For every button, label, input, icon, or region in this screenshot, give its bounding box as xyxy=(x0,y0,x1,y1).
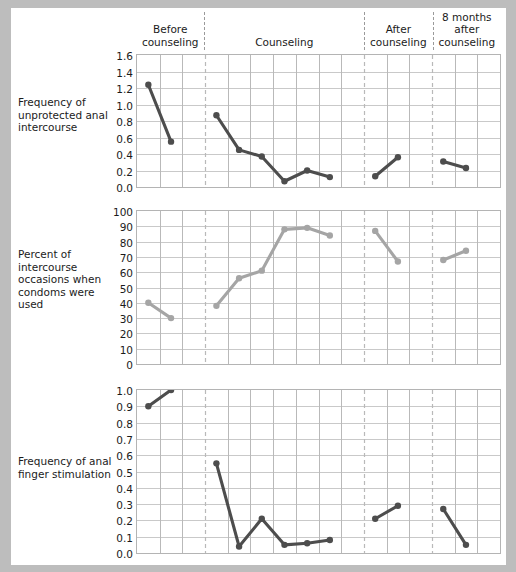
data-point xyxy=(145,403,151,409)
data-point xyxy=(236,543,242,549)
y-tick-label: 0.4 xyxy=(116,484,133,495)
y-tick-label: 0.7 xyxy=(116,435,133,446)
series-line-before xyxy=(148,390,171,406)
data-point xyxy=(327,537,333,543)
data-point xyxy=(372,516,378,522)
data-point xyxy=(440,506,446,512)
data-point xyxy=(213,460,219,466)
chart-block-frequency-finger-stimulation: Frequency of anal finger stimulation 0.0… xyxy=(11,8,506,565)
chart-svg-3 xyxy=(137,390,500,553)
y-tick-label: 1.0 xyxy=(116,386,133,397)
chart-row-label: Frequency of anal finger stimulation xyxy=(18,455,121,480)
series-line-after xyxy=(375,506,398,519)
figure-page: BeforecounselingCounselingAftercounselin… xyxy=(11,8,506,565)
y-tick-label: 0.6 xyxy=(116,451,133,462)
x-axis-title: Bi-weekly periods xyxy=(11,564,506,565)
data-point xyxy=(463,542,469,548)
data-point xyxy=(281,542,287,548)
data-point xyxy=(395,503,401,509)
y-tick-label: 0.3 xyxy=(116,500,133,511)
data-point xyxy=(304,540,310,546)
plot-area-chart-3: 0.00.10.20.30.40.50.60.70.80.91.0 xyxy=(136,389,501,554)
y-tick-label: 0.9 xyxy=(116,402,133,413)
y-tick-label: 0.2 xyxy=(116,516,133,527)
y-tick-label: 0.8 xyxy=(116,418,133,429)
y-tick-label: 0.1 xyxy=(116,532,133,543)
series-line-follow xyxy=(443,509,466,545)
y-tick-label: 0.0 xyxy=(116,549,133,560)
data-point xyxy=(259,516,265,522)
y-tick-label: 0.5 xyxy=(116,467,133,478)
